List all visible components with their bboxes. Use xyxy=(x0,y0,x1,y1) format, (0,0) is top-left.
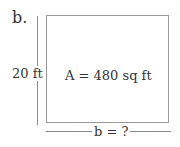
base-label: b = ? xyxy=(92,124,130,139)
part-label: b. xyxy=(12,8,27,27)
height-label: 20 ft xyxy=(12,66,43,81)
area-label: A = 480 sq ft xyxy=(65,68,152,83)
